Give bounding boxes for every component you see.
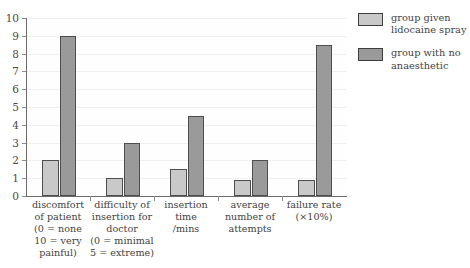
x-axis-label-line: failure rate	[282, 199, 346, 211]
x-axis-separator-tick	[282, 196, 283, 201]
legend-label-line: group given	[391, 12, 466, 24]
bar	[298, 180, 315, 196]
x-axis-label-line: doctor	[90, 223, 154, 235]
x-axis-label-line: difficulty of	[90, 199, 154, 211]
x-axis-label-line: attempts	[218, 223, 282, 235]
y-tick-label: 4	[12, 120, 19, 131]
y-tick-label: 8	[12, 48, 19, 59]
legend-label-line: anaesthetic	[391, 60, 461, 72]
y-tick-label: 0	[12, 191, 19, 202]
x-axis-label-line: (0 = none	[26, 223, 90, 235]
bar	[252, 160, 269, 196]
x-axis-label-line: insertion for	[90, 211, 154, 223]
legend-item: group with noanaesthetic	[358, 47, 470, 71]
bar	[188, 116, 205, 196]
x-axis-separator-tick	[154, 196, 155, 201]
bar	[234, 180, 251, 196]
legend-label-line: lidocaine spray	[391, 24, 466, 36]
bar	[42, 160, 59, 196]
legend-label: group givenlidocaine spray	[391, 12, 466, 36]
x-axis-labels: discomfortof patient(0 = none10 = verypa…	[26, 199, 346, 268]
x-axis-label: averagenumber ofattempts	[218, 199, 282, 235]
x-axis-label-line: discomfort	[26, 199, 90, 211]
x-axis-label-line: average	[218, 199, 282, 211]
bar	[316, 45, 333, 196]
x-axis-label-line: insertion	[154, 199, 218, 211]
legend-swatch	[358, 13, 383, 26]
bar	[106, 178, 123, 196]
x-axis-label-line: time	[154, 211, 218, 223]
x-axis-label: discomfortof patient(0 = none10 = verypa…	[26, 199, 90, 259]
plot-area	[26, 18, 347, 197]
x-axis-label-line: of patient	[26, 211, 90, 223]
x-axis-label-line: number of	[218, 211, 282, 223]
x-axis-label-line: /mins	[154, 223, 218, 235]
legend-swatch	[358, 48, 383, 61]
legend-label-line: group with no	[391, 47, 461, 59]
x-axis-label-line: (×10%)	[282, 211, 346, 223]
y-tick-label: 3	[12, 137, 19, 148]
x-axis-label-line: 5 = extreme)	[90, 247, 154, 259]
y-tick-label: 1	[12, 173, 19, 184]
y-tick-label: 2	[12, 155, 19, 166]
x-axis-label-line: 10 = very	[26, 235, 90, 247]
legend: group givenlidocaine spraygroup with noa…	[358, 12, 470, 83]
y-tick-label: 5	[12, 102, 19, 113]
x-axis-label-line: painful)	[26, 247, 90, 259]
y-tick-label: 10	[6, 13, 19, 24]
x-axis-label: failure rate(×10%)	[282, 199, 346, 223]
y-tick-label: 6	[12, 84, 19, 95]
bar-chart: 012345678910 discomfortof patient(0 = no…	[0, 0, 470, 268]
x-axis-separator-tick	[218, 196, 219, 201]
bar	[124, 143, 141, 196]
x-axis-label: insertiontime/mins	[154, 199, 218, 235]
y-tick-label: 9	[12, 31, 19, 42]
bar	[170, 169, 187, 196]
y-axis: 012345678910	[0, 0, 26, 268]
bar	[60, 36, 77, 196]
x-axis-separator-tick	[90, 196, 91, 201]
x-axis-label: difficulty ofinsertion fordoctor(0 = min…	[90, 199, 154, 259]
gridline	[27, 18, 347, 19]
y-tick-label: 7	[12, 66, 19, 77]
legend-label: group with noanaesthetic	[391, 47, 461, 71]
x-axis-label-line: (0 = minimal	[90, 235, 154, 247]
plot-inner	[27, 18, 347, 196]
legend-item: group givenlidocaine spray	[358, 12, 470, 36]
